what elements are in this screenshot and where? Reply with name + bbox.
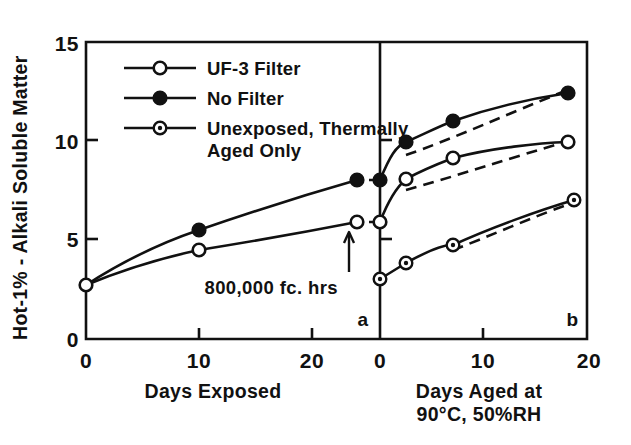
data-point-b-no-filter-2 [400,136,413,149]
legend-marker-filled-circle-icon [154,92,167,105]
legend-marker-open-circle-icon [154,62,167,75]
series-extrapolation-b-unexposed [453,203,572,250]
annotation-800000-fc-hrs: 800,000 fc. hrs [204,232,354,298]
data-point-b-unexposed-2-center [404,261,408,265]
data-point-b-unexposed-18-center [572,198,576,202]
data-point-b-uf3-2 [400,173,413,186]
y-tick-label-15: 15 [55,32,79,55]
data-point-b-no-filter-18 [562,87,575,100]
data-point-a-uf3-24 [351,216,364,229]
x-tick-label-a-0: 0 [80,349,92,372]
x-tick-label-b-20: 20 [577,349,601,372]
data-point-a-uf3-10 [193,244,206,257]
legend-marker-dotted-circle-center-icon [158,126,162,130]
chart-svg: Hot-1% - Alkali Soluble Matter 15 10 5 0… [0,0,631,445]
x-axis-title-panel-a: Days Exposed [145,380,282,402]
legend-label-unexposed-line1: Unexposed, Thermally [207,118,409,139]
y-axis-title: Hot-1% - Alkali Soluble Matter [9,55,31,340]
series-extrapolation-b-no-filter [406,89,570,155]
data-point-a-no-filter-24 [351,174,364,187]
x-axis-title-panel-b-line2: 90°C, 50%RH [417,403,542,425]
data-point-b-no-filter-0 [374,174,387,187]
y-tick-label-5: 5 [67,228,79,251]
y-tick-label-10: 10 [55,130,79,153]
x-tick-label-b-0: 0 [374,349,386,372]
panel-label-b: b [566,309,578,330]
legend: UF-3 Filter No Filter Unexposed, Thermal… [124,58,409,161]
x-tick-label-a-20: 20 [300,349,324,372]
data-point-a-start [80,279,93,292]
x-axis-title-panel-b-line1: Days Aged at [416,380,543,402]
data-point-b-no-filter-7 [447,115,460,128]
series-curve-a-uf3 [86,222,357,285]
x-tick-label-a-10: 10 [187,349,211,372]
x-tick-label-b-10: 10 [471,349,495,372]
legend-label-uf3: UF-3 Filter [207,58,301,79]
data-point-b-unexposed-0-center [378,277,382,281]
annotation-label: 800,000 fc. hrs [204,277,338,298]
data-point-b-uf3-0 [374,216,387,229]
data-point-a-no-filter-10 [193,224,206,237]
data-point-b-uf3-18 [562,136,575,149]
series-extrapolation-b-uf3 [406,140,572,190]
panel-label-a: a [357,309,368,330]
data-point-b-uf3-7 [447,152,460,165]
y-tick-label-0: 0 [67,328,79,351]
legend-label-nofilter: No Filter [207,88,284,109]
figure-container: Hot-1% - Alkali Soluble Matter 15 10 5 0… [0,0,631,445]
data-point-b-unexposed-7-center [451,243,455,247]
legend-label-unexposed-line2: Aged Only [207,140,302,161]
